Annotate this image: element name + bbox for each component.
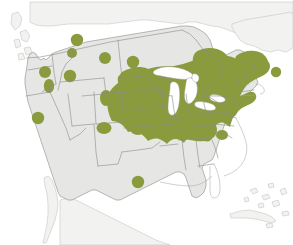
range-dot [271, 67, 281, 77]
pacific-coast-islands [11, 12, 32, 60]
coast-atlantic [224, 118, 247, 176]
range-dot [71, 34, 83, 46]
range-dot [130, 123, 146, 135]
range-dot [242, 53, 252, 63]
range-dot [99, 52, 111, 64]
range-dot [257, 65, 267, 75]
mexico-landmass [60, 198, 170, 245]
range-dot [138, 95, 151, 110]
coast-cape-cod [256, 84, 264, 94]
species-range-map [0, 0, 293, 245]
map-canvas [0, 0, 293, 245]
cuba-landmass [230, 210, 276, 223]
range-dot [141, 74, 152, 85]
range-dot [127, 56, 139, 68]
range-dot [216, 130, 228, 140]
range-dot [32, 112, 44, 124]
range-dot [202, 131, 213, 142]
range-dot [64, 70, 76, 82]
range-dot [132, 176, 144, 188]
coast-florida [210, 164, 220, 198]
